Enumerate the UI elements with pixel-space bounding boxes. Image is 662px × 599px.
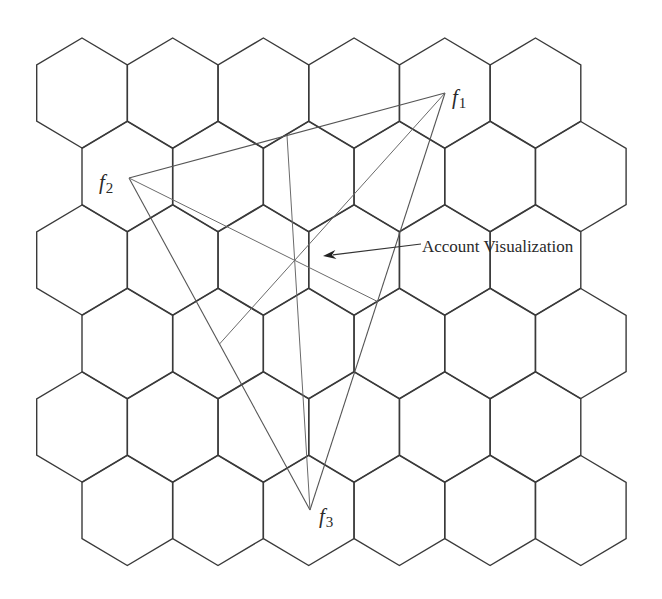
hex-cell	[536, 122, 627, 232]
hex-cell	[263, 289, 354, 399]
hex-cell	[354, 289, 445, 399]
diagram-canvas: f1f2f3 Account Visualization	[0, 0, 662, 599]
hex-cell	[445, 456, 536, 566]
hex-cell	[37, 38, 128, 148]
hex-cell	[127, 372, 218, 482]
hex-cell	[536, 289, 627, 399]
hex-cell	[37, 372, 128, 482]
hex-cell	[309, 38, 400, 148]
hex-cell	[354, 456, 445, 566]
hex-cell	[490, 372, 581, 482]
annotation-label: Account Visualization	[422, 237, 574, 256]
hex-cell	[82, 456, 173, 566]
hex-cell	[173, 122, 264, 232]
hex-cell	[490, 205, 581, 315]
hex-cell	[354, 122, 445, 232]
hex-cell	[82, 122, 173, 232]
hex-cell	[127, 38, 218, 148]
hexagon-grid-diagram: f1f2f3 Account Visualization	[0, 0, 662, 599]
arrow-line	[333, 244, 421, 255]
hex-cell	[173, 456, 264, 566]
hex-cell	[37, 205, 128, 315]
hex-cell	[263, 456, 354, 566]
hex-cell	[445, 122, 536, 232]
hexagon-cell-grid	[37, 38, 626, 566]
hex-cell	[82, 289, 173, 399]
median-from-f2	[129, 178, 378, 302]
hex-cell	[490, 38, 581, 148]
median-from-f3	[287, 136, 310, 511]
hex-cell	[218, 372, 309, 482]
hex-cell	[309, 372, 400, 482]
hex-cell	[536, 456, 627, 566]
point-label-f3: f3	[319, 504, 333, 530]
point-label-f2: f2	[99, 170, 113, 196]
annotation-arrow	[323, 244, 421, 259]
hex-cell	[173, 289, 264, 399]
hex-cell	[127, 205, 218, 315]
hex-cell	[218, 38, 309, 148]
median-from-f1	[220, 93, 446, 344]
hex-cell	[400, 372, 491, 482]
hex-cell	[445, 289, 536, 399]
point-label-f1: f1	[452, 85, 466, 111]
hex-cell	[309, 205, 400, 315]
hex-cell	[400, 205, 491, 315]
